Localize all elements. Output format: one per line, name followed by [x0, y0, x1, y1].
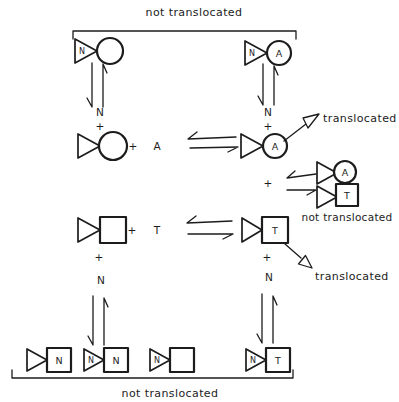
plus-sign: +	[95, 251, 104, 263]
triangle-shape	[78, 218, 100, 242]
translocated-arrow-lower: translocated	[285, 244, 389, 283]
triangle-label: N	[154, 356, 160, 365]
molecule-bottom-right: N T	[246, 348, 290, 372]
down-arrow	[87, 63, 92, 107]
molecule-complex: A T not translocated	[301, 161, 392, 223]
arrow-line	[285, 244, 301, 258]
translocated-label-lower: translocated	[315, 270, 389, 283]
triangle-label: N	[250, 356, 256, 365]
triangle-shape	[78, 134, 100, 158]
left-harpoon	[188, 132, 236, 139]
right-harpoon	[287, 190, 316, 195]
molecule-bottom-3: N	[150, 348, 194, 372]
triangle-shape	[242, 218, 262, 242]
complex-not-translocated-label: not translocated	[301, 211, 392, 223]
molecule-top-left: N	[75, 38, 123, 64]
triangle-label: N	[249, 49, 255, 58]
released-n-label: N	[265, 271, 273, 283]
square-shape	[100, 217, 126, 243]
vertical-equilibrium-top-left: N +	[87, 63, 107, 132]
right-harpoon	[190, 147, 238, 152]
up-arrow	[103, 64, 107, 107]
molecule-bottom-1: N	[27, 348, 71, 372]
body-label: N	[112, 355, 119, 366]
vertical-equilibrium-bottom-left	[88, 296, 108, 345]
equilibrium-arrows-circle-row	[188, 132, 238, 152]
triangle-shape-bottom	[317, 186, 337, 208]
molecule-mid-right-square: T	[242, 217, 288, 243]
vertical-equilibrium-top-right: N +	[258, 64, 278, 132]
down-arrow	[258, 64, 263, 105]
triangle-shape	[84, 349, 104, 371]
triangle-label: N	[88, 356, 94, 365]
body-label: T	[274, 355, 281, 366]
translocation-scheme-figure: not translocated not translocated N N A …	[0, 0, 399, 402]
circle-shape	[99, 132, 127, 160]
square-shape	[170, 348, 194, 372]
release-labels-bottom-left: + N	[95, 251, 105, 286]
triangle-label: N	[79, 47, 85, 56]
triangle-shape	[246, 349, 266, 371]
released-n-label: N	[264, 106, 272, 118]
equilibrium-arrows-square-row	[187, 216, 233, 239]
triangle-shape	[241, 134, 263, 158]
released-n-label: N	[97, 274, 105, 286]
diagram-canvas: not translocated not translocated N N A …	[0, 0, 399, 402]
equilibrium-arrows-complex	[287, 171, 316, 195]
circle-shape	[97, 38, 123, 64]
triangle-shape	[27, 349, 47, 371]
plus-sign: +	[96, 120, 105, 132]
released-n-label: N	[96, 106, 104, 118]
down-arrow	[88, 296, 93, 345]
plus-sign-circle-row: +	[129, 140, 138, 152]
plus-sign-complex: +	[264, 177, 273, 189]
plus-sign-square-row: +	[128, 224, 137, 236]
open-arrowhead	[303, 114, 319, 128]
left-harpoon	[287, 171, 316, 178]
square-label: T	[343, 190, 350, 201]
body-label: A	[276, 48, 283, 59]
down-arrow	[257, 294, 262, 343]
plus-sign: +	[264, 120, 273, 132]
body-label: T	[271, 225, 278, 236]
bottom-bracket-label: not translocated	[122, 387, 219, 400]
molecule-mid-left-circle	[78, 132, 127, 160]
free-ligand-a: A	[153, 140, 161, 152]
body-label: A	[272, 141, 279, 152]
bottom-bracket: not translocated	[12, 370, 293, 400]
molecule-mid-left-square	[78, 217, 126, 243]
translocated-label-upper: translocated	[323, 112, 397, 125]
up-arrow	[273, 296, 277, 343]
triangle-shape	[150, 349, 170, 371]
molecule-top-right: N A	[245, 41, 291, 65]
release-labels-bottom-right: + N	[263, 251, 273, 283]
vertical-equilibrium-bottom-right	[257, 294, 277, 343]
up-arrow	[104, 298, 108, 345]
plus-sign: +	[263, 251, 272, 263]
right-harpoon	[188, 234, 233, 239]
circle-label: A	[342, 167, 349, 178]
free-ligand-t: T	[153, 224, 161, 236]
top-bracket-label: not translocated	[146, 6, 243, 19]
body-label: N	[55, 355, 62, 366]
up-arrow	[274, 66, 278, 105]
top-bracket: not translocated	[73, 6, 296, 39]
molecule-mid-right-circle: A	[241, 134, 287, 158]
left-harpoon	[187, 216, 232, 223]
arrow-line	[284, 124, 306, 141]
molecule-bottom-2: N N	[84, 348, 128, 372]
translocated-arrow-upper: translocated	[284, 112, 397, 141]
